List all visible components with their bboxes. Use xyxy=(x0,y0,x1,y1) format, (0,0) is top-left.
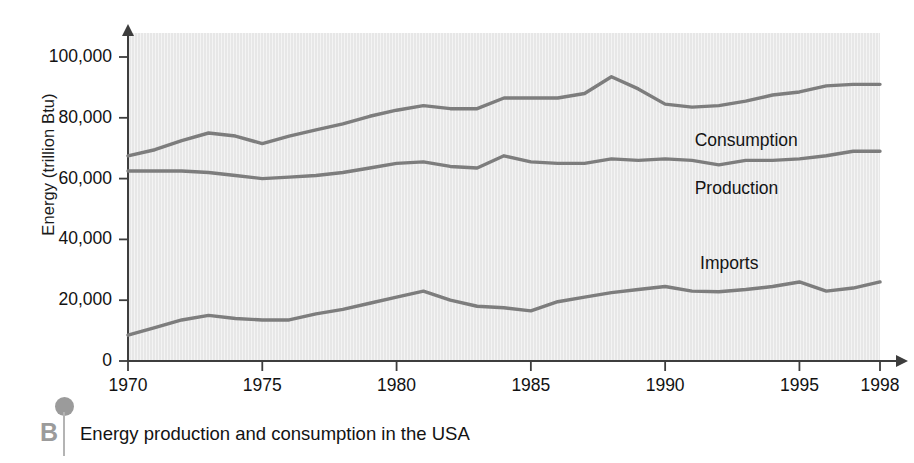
series-line-consumption xyxy=(128,77,880,156)
axes-group xyxy=(119,34,898,371)
caption-letter: B xyxy=(40,420,58,445)
figure-energy-production-consumption: Energy (trillion Btu) 020,00040,00060,00… xyxy=(0,0,914,463)
series-line-production xyxy=(128,151,880,178)
series-line-imports xyxy=(128,282,880,335)
figure-caption: B Energy production and consumption in t… xyxy=(34,398,894,456)
caption-stem xyxy=(63,412,65,456)
caption-text: Energy production and consumption in the… xyxy=(80,424,470,444)
data-lines-group xyxy=(128,77,880,335)
chart-svg xyxy=(0,0,914,463)
